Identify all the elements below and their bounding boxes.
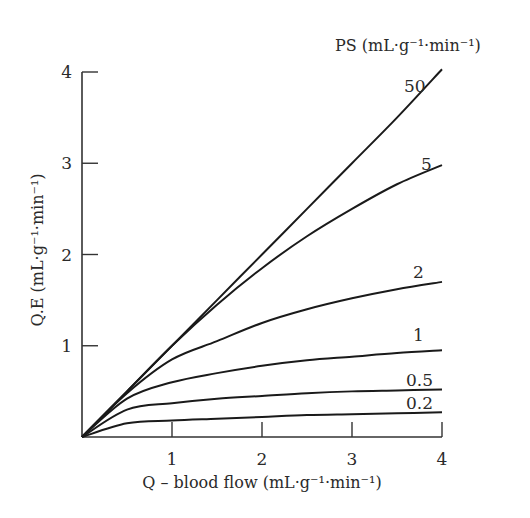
x-tick-label: 2 <box>257 449 268 469</box>
chart: 12341234 505210.50.2PS (mL·g⁻¹·min⁻¹)Q –… <box>0 0 530 518</box>
y-tick-label: 1 <box>61 336 72 356</box>
curve-label-ps-0.5: 0.5 <box>406 370 433 390</box>
x-tick-label: 4 <box>437 449 448 469</box>
x-axis-label: Q – blood flow (mL·g⁻¹·min⁻¹) <box>142 473 381 492</box>
x-tick-label: 1 <box>167 449 178 469</box>
curves <box>82 69 442 437</box>
y-axis-label: Q.E (mL·g⁻¹·min⁻¹) <box>28 173 47 326</box>
axes: 12341234 <box>61 62 447 469</box>
curve-label-ps-5: 5 <box>421 154 432 174</box>
y-tick-label: 3 <box>61 153 72 173</box>
y-tick-label: 2 <box>61 245 72 265</box>
curve-label-ps-50: 50 <box>404 76 426 96</box>
x-tick-label: 3 <box>347 449 358 469</box>
curve-label-ps-2: 2 <box>413 262 424 282</box>
curve-label-ps-1: 1 <box>413 325 424 345</box>
y-tick-label: 4 <box>61 62 72 82</box>
legend-title: PS (mL·g⁻¹·min⁻¹) <box>335 36 481 55</box>
curve-label-ps-0.2: 0.2 <box>406 393 433 413</box>
